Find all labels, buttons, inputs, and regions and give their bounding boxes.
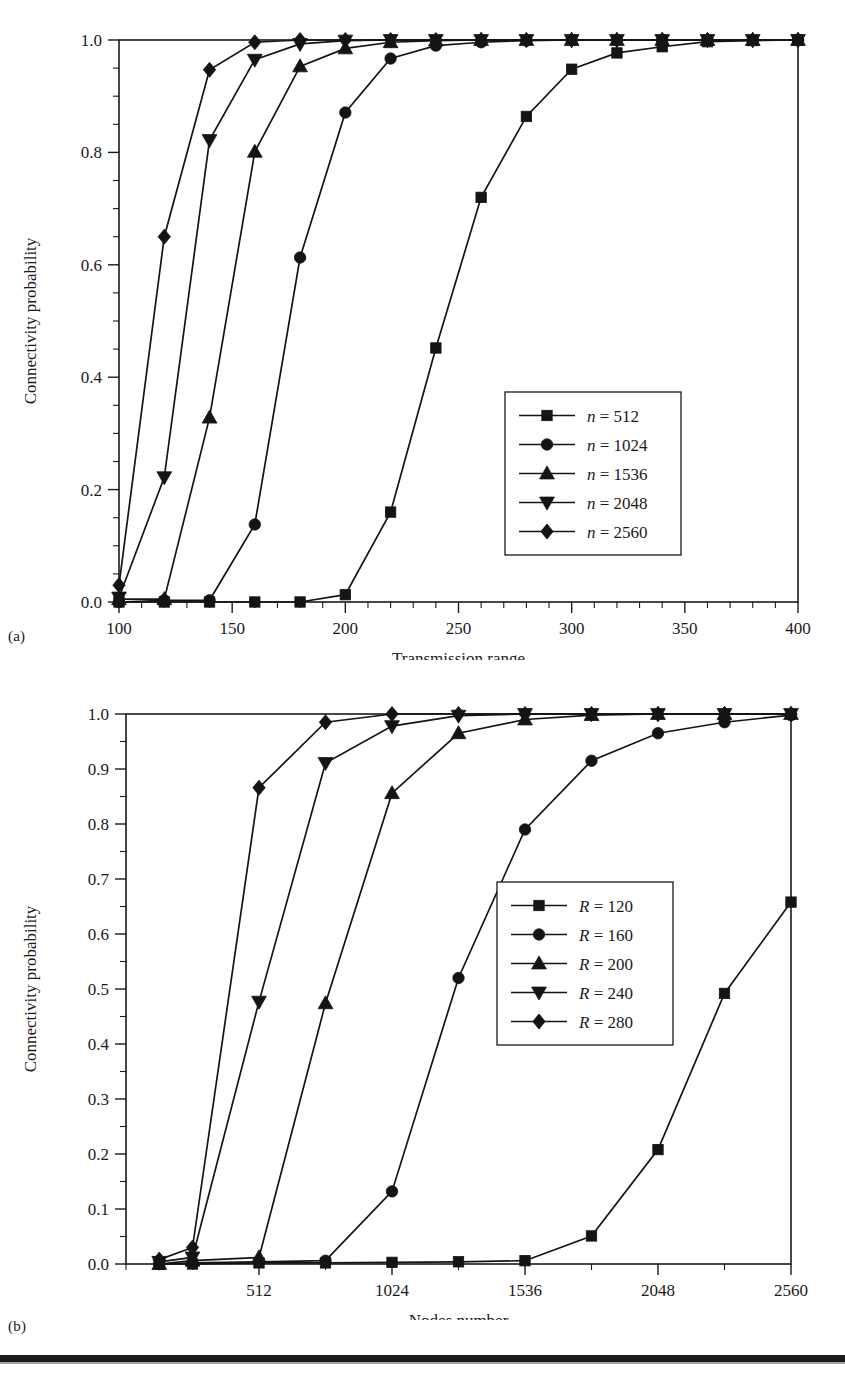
series-group [112,32,806,607]
series-line-1 [119,40,798,602]
series-line-2 [159,714,791,1264]
x-tick-label: 512 [246,1281,272,1300]
x-tick-label: 350 [672,619,698,638]
y-tick-label: 0.3 [88,1090,109,1109]
legend-sample-marker [533,929,544,940]
data-point-marker [385,53,396,64]
data-point-marker [340,589,350,599]
data-point-marker [519,824,530,835]
data-point-marker [719,988,729,998]
y-tick-label: 0.5 [88,980,109,999]
x-tick-label: 200 [333,619,359,638]
y-tick-label: 0.1 [88,1200,109,1219]
x-tick-label: 150 [219,619,245,638]
panel-label-b: (b) [8,1318,26,1335]
x-tick-label: 1536 [508,1281,542,1300]
data-point-marker [247,144,262,157]
data-point-marker [247,54,262,67]
data-point-marker [452,706,464,721]
x-tick-label: 2048 [641,1281,675,1300]
data-point-marker [202,135,217,148]
y-tick-label: 0.4 [81,368,103,387]
data-point-marker [566,64,576,74]
data-point-marker [431,343,441,353]
legend-item-label: n = 512 [587,407,639,426]
y-axis-title: Connectivity probability [21,237,40,404]
chart-panel-a: 1001502002503003504000.00.20.40.60.81.0T… [0,0,845,660]
legend-item-label: R = 160 [578,926,633,945]
y-tick-label: 0.0 [81,593,102,612]
legend-item-label: n = 2560 [587,523,648,542]
data-point-marker [250,597,260,607]
y-axis-title: Connectivity probability [21,905,40,1072]
data-point-marker [586,755,597,766]
x-tick-label: 300 [559,619,585,638]
y-tick-label: 0.2 [81,481,102,500]
chart-b-svg: 51210241536204825600.00.10.20.30.40.50.6… [0,660,845,1320]
data-point-marker [113,578,125,593]
data-point-marker [318,996,333,1009]
y-tick-label: 0.7 [88,870,110,889]
panel-label-a: (a) [8,628,25,645]
data-point-marker [157,472,172,485]
chart-panel-b: 51210241536204825600.00.10.20.30.40.50.6… [0,660,845,1320]
data-point-marker [340,107,351,118]
series-line-2 [119,40,798,599]
legend-item-label: n = 1024 [587,436,648,455]
x-axis-title: Transmission range [392,649,525,660]
y-tick-label: 0.8 [88,815,109,834]
series-line-4 [119,40,798,585]
data-point-marker [652,728,663,739]
data-point-marker [385,721,400,734]
data-point-marker [293,59,308,72]
y-tick-label: 0.6 [88,925,109,944]
series-line-1 [159,715,791,1264]
data-point-marker [586,1231,596,1241]
data-point-marker [249,519,260,530]
x-tick-label: 1024 [375,1281,410,1300]
legend-item-label: n = 2048 [587,494,648,513]
legend-item-label: R = 200 [578,955,633,974]
data-point-marker [202,410,217,423]
data-point-marker [320,1255,331,1266]
series-line-0 [119,40,798,602]
legend-sample-marker [542,410,552,420]
data-point-marker [386,706,398,721]
x-tick-label: 250 [446,619,472,638]
data-point-marker [252,996,267,1009]
legend-item-label: R = 240 [578,984,633,1003]
x-tick-label: 400 [785,619,811,638]
data-point-marker [476,192,486,202]
y-tick-label: 0.2 [88,1145,109,1164]
legend-item-label: n = 1536 [587,465,648,484]
data-point-marker [453,972,464,983]
data-point-marker [387,1257,397,1267]
y-tick-label: 0.0 [88,1255,109,1274]
data-point-marker [204,595,215,606]
y-tick-label: 0.8 [81,143,102,162]
figure-container: 1001502002503003504000.00.20.40.60.81.0T… [0,0,845,1390]
series-line-4 [159,714,791,1260]
series-line-3 [119,40,798,598]
data-point-marker [453,1257,463,1267]
data-point-marker [520,1256,530,1266]
data-point-marker [249,35,261,50]
data-point-marker [295,597,305,607]
data-point-marker [158,229,170,244]
data-point-marker [385,507,395,517]
data-point-marker [318,758,333,771]
data-point-marker [653,1144,663,1154]
series-line-3 [159,714,791,1262]
y-tick-label: 0.9 [88,760,109,779]
data-point-marker [203,62,215,77]
data-point-marker [386,1186,397,1197]
legend-item-label: R = 120 [578,897,633,916]
data-point-marker [339,32,351,47]
data-point-marker [294,252,305,263]
legend-sample-marker [541,439,552,450]
data-point-marker [252,1250,267,1263]
figure-bottom-rule [0,1355,845,1362]
x-tick-label: 2560 [774,1281,808,1300]
y-tick-label: 0.4 [88,1035,110,1054]
data-point-marker [521,111,531,121]
